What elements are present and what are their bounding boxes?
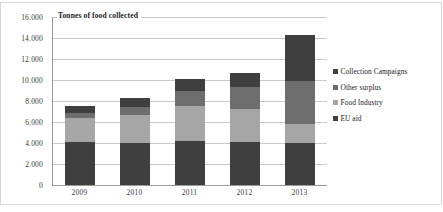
bar-segment[interactable]: [65, 118, 95, 143]
bar-segment[interactable]: [230, 73, 260, 88]
y-axis-tick-label: 14.000: [21, 34, 43, 43]
legend-swatch-icon: [333, 116, 338, 121]
x-axis-tick-label: 2011: [170, 188, 210, 197]
bar-segment[interactable]: [120, 98, 150, 107]
legend-item[interactable]: Collection Campaigns: [333, 64, 441, 80]
x-axis-tick-labels: 20092010201120122013: [52, 188, 327, 204]
legend-item-label: Collection Campaigns: [341, 67, 408, 76]
bar-segment[interactable]: [120, 115, 150, 143]
legend-item[interactable]: EU aid: [333, 111, 441, 127]
legend-swatch-icon: [333, 85, 338, 90]
legend-item[interactable]: Other surplus: [333, 80, 441, 96]
bar-segment[interactable]: [120, 143, 150, 185]
bar-segment[interactable]: [285, 143, 315, 185]
bar-stack: [120, 98, 150, 185]
bar-segment[interactable]: [285, 35, 315, 81]
legend-item[interactable]: Food Industry: [333, 95, 441, 111]
legend-item-label: Other surplus: [341, 83, 382, 92]
x-axis-tick-label: 2010: [115, 188, 155, 197]
bar-segment[interactable]: [230, 109, 260, 142]
bar-segment[interactable]: [230, 142, 260, 185]
stacked-bar-chart: 16.00014.00012.00010.0008.0006.0004.0002…: [0, 0, 443, 212]
bar-stack: [285, 35, 315, 185]
x-axis-tick-label: 2013: [280, 188, 320, 197]
y-axis-tick-label: 6.000: [25, 118, 43, 127]
legend-swatch-icon: [333, 100, 338, 105]
bar-stack: [175, 79, 205, 185]
x-axis-tick-label: 2009: [60, 188, 100, 197]
bar-stack: [65, 106, 95, 185]
bar-segment[interactable]: [65, 142, 95, 185]
x-axis-baseline: [52, 185, 327, 186]
x-axis-tick-label: 2012: [225, 188, 265, 197]
bar-segment[interactable]: [230, 87, 260, 109]
bar-segment[interactable]: [285, 81, 315, 124]
chart-legend: Collection CampaignsOther surplusFood In…: [333, 64, 441, 126]
bars-layer: [52, 17, 327, 185]
legend-item-label: Food Industry: [341, 98, 383, 107]
y-axis-tick-label: 16.000: [21, 13, 43, 22]
y-axis-tick-label: 4.000: [25, 139, 43, 148]
y-axis-tick-label: 10.000: [21, 76, 43, 85]
bar-segment[interactable]: [175, 106, 205, 141]
y-axis-tick-label: 12.000: [21, 55, 43, 64]
bar-segment[interactable]: [175, 79, 205, 91]
y-axis-tick-label: 8.000: [25, 97, 43, 106]
y-axis-tick-label: 2.000: [25, 160, 43, 169]
legend-item-label: EU aid: [341, 114, 362, 123]
bar-segment[interactable]: [285, 124, 315, 143]
bar-segment[interactable]: [120, 107, 150, 114]
bar-segment[interactable]: [175, 141, 205, 185]
bar-stack: [230, 73, 260, 185]
y-axis-tick-labels: 16.00014.00012.00010.0008.0006.0004.0002…: [0, 0, 48, 212]
y-axis-tick-label: 0: [39, 181, 43, 190]
legend-swatch-icon: [333, 69, 338, 74]
bar-segment[interactable]: [175, 91, 205, 106]
